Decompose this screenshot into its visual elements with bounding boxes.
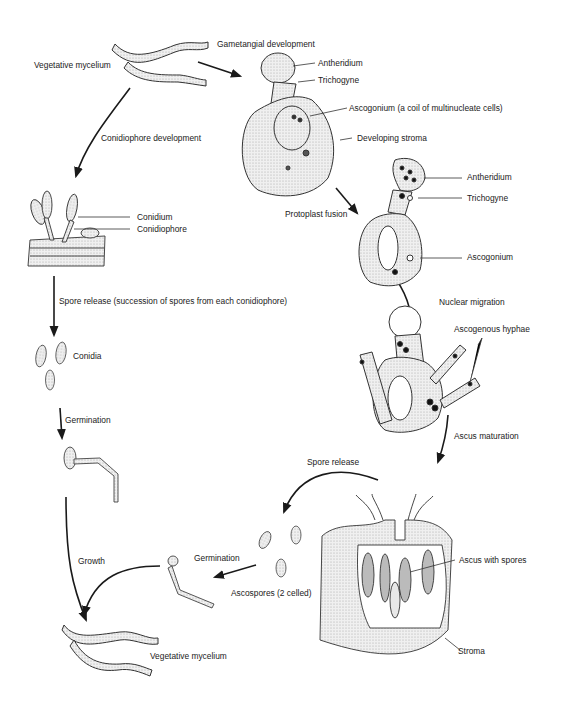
- label-conidiophore: Conidiophore: [137, 225, 187, 233]
- label-growth: Growth: [78, 557, 105, 565]
- vegetative-mycelium-top-drawing: [112, 42, 208, 86]
- protoplast-fusion-drawing: [359, 158, 425, 285]
- label-ascus-maturation: Ascus maturation: [454, 432, 519, 440]
- arrow-growth-from-germling: [84, 566, 160, 615]
- arrow-spore-release: [284, 472, 378, 512]
- germinating-ascospore-drawing: [168, 556, 214, 608]
- label-spore-release: Spore release: [307, 458, 359, 466]
- arrow-conidiophore-development: [76, 88, 130, 176]
- conidiophore-leader-lines: [74, 217, 130, 229]
- arrow-germination-ascospores: [215, 565, 256, 577]
- arrow-ascus-maturation: [438, 415, 448, 462]
- label-gametangial-development: Gametangial development: [217, 40, 315, 48]
- label-antheridium-2: Antheridium: [467, 173, 512, 181]
- label-ascogonium: Ascogonium: [467, 253, 513, 261]
- stroma-ascus-drawing: [320, 494, 452, 654]
- label-germination-ascospores: Germination: [194, 554, 240, 562]
- label-conidia: Conidia: [73, 352, 101, 360]
- label-spore-release-conidiophore: Spore release (succession of spores from…: [59, 297, 287, 305]
- label-ascus-with-spores: Ascus with spores: [459, 556, 527, 564]
- label-conidiophore-development: Conidiophore development: [101, 134, 201, 142]
- germinating-conidium-drawing: [64, 447, 118, 502]
- label-trichogyne-1: Trichogyne: [318, 76, 359, 84]
- vegetative-mycelium-bottom-drawing: [62, 625, 158, 676]
- label-stroma: Stroma: [458, 647, 485, 655]
- label-antheridium-1: Antheridium: [318, 59, 363, 67]
- conidia-drawing: [34, 341, 67, 390]
- label-germination-conidia: Germination: [65, 416, 111, 424]
- label-ascogonium-coil: Ascogonium (a coil of multinucleate cell…: [349, 104, 503, 112]
- label-vegetative-mycelium-top: Vegetative mycelium: [34, 61, 111, 69]
- label-ascospores: Ascospores (2 celled): [231, 589, 312, 597]
- label-nuclear-migration: Nuclear migration: [439, 298, 505, 306]
- arrow-to-gametangial: [198, 62, 240, 76]
- label-conidium: Conidium: [137, 213, 172, 221]
- label-protoplast-fusion: Protoplast fusion: [285, 210, 347, 218]
- arrow-germination-conidia: [60, 408, 62, 438]
- ascospores-drawing: [257, 526, 301, 577]
- label-vegetative-mycelium-bottom: Vegetative mycelium: [150, 652, 227, 660]
- label-trichogyne-2: Trichogyne: [467, 194, 508, 202]
- conidiophore-drawing: [28, 191, 105, 266]
- label-ascogenous-hyphae: Ascogenous hyphae: [454, 325, 530, 333]
- label-developing-stroma: Developing stroma: [357, 134, 427, 142]
